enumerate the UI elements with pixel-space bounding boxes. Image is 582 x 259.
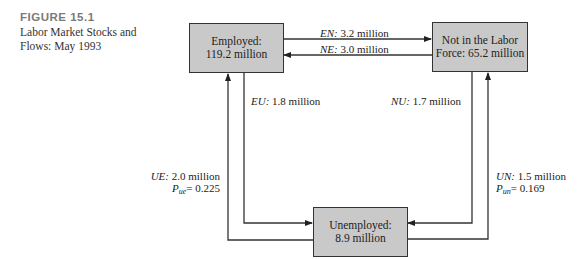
flow-value: 2.0 million <box>172 170 220 182</box>
unemployed-value: 8.9 million <box>335 232 385 245</box>
flow-code: UE: <box>151 170 169 182</box>
prob-symbol: P <box>172 182 179 194</box>
flow-value: 3.0 million <box>340 43 388 55</box>
flow-value: 3.2 million <box>340 27 388 39</box>
unemployed-label: Unemployed: <box>329 219 392 232</box>
node-unemployed: Unemployed: 8.9 million <box>313 207 408 257</box>
flow-code: UN: <box>496 170 515 182</box>
flow-code: NE: <box>320 43 338 55</box>
nilf-value: Force: 65.2 million <box>436 47 524 60</box>
node-not-in-labor-force: Not in the Labor Force: 65.2 million <box>432 22 528 72</box>
node-employed: Employed: 119.2 million <box>189 23 284 73</box>
flow-code: EU: <box>251 95 269 107</box>
prob-subscript: un <box>503 187 511 196</box>
flow-label-EN: EN: 3.2 million <box>320 27 389 39</box>
flow-label-EU: EU: 1.8 million <box>251 95 320 107</box>
prob-value: = 0.169 <box>511 182 545 194</box>
prob-symbol: P <box>496 182 503 194</box>
flow-value: 1.5 million <box>518 170 566 182</box>
flow-label-NE: NE: 3.0 million <box>320 43 389 55</box>
flow-label-UE: UE: 2.0 million Pue= 0.225 <box>146 170 220 198</box>
nilf-label: Not in the Labor <box>442 34 518 47</box>
flow-code: EN: <box>320 27 338 39</box>
flow-value: 1.8 million <box>272 95 320 107</box>
flow-value: 1.7 million <box>413 95 461 107</box>
flow-label-NU: NU: 1.7 million <box>391 95 461 107</box>
prob-value: = 0.225 <box>186 182 220 194</box>
employed-value: 119.2 million <box>206 48 268 61</box>
flow-code: NU: <box>391 95 410 107</box>
flow-label-UN: UN: 1.5 million Pun= 0.169 <box>496 170 566 198</box>
employed-label: Employed: <box>211 35 261 48</box>
